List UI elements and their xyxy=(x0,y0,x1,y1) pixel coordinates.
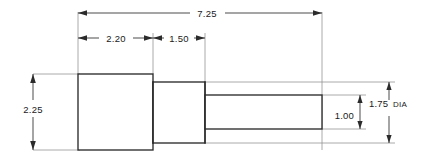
arrow-1-75-bottom xyxy=(386,135,391,143)
dimension-block-width: 2.20 xyxy=(78,33,153,44)
left-block-outline xyxy=(78,74,153,150)
arrow-7-25-left xyxy=(78,10,87,16)
dim-label-diameter-value: 1.75 xyxy=(369,98,388,109)
dim-label-block-width: 2.20 xyxy=(106,33,125,44)
arrow-2-25-bottom xyxy=(30,141,36,150)
arrow-1-50-right xyxy=(196,35,205,41)
right-shaft-outline xyxy=(205,95,322,129)
dimension-shaft-height: 1.00 xyxy=(335,95,363,129)
arrow-7-25-right xyxy=(313,10,322,16)
arrow-2-20-left xyxy=(78,35,87,41)
arrow-1-00-top xyxy=(357,95,362,103)
dimension-block-height: 2.25 xyxy=(23,74,42,150)
dimension-overall-length: 7.25 xyxy=(78,8,322,19)
arrow-1-75-top xyxy=(386,82,391,90)
part-drawing-svg: 7.25 2.20 1.50 2.25 xyxy=(0,0,421,164)
arrow-1-50-left xyxy=(153,35,162,41)
dim-label-overall-length: 7.25 xyxy=(197,8,216,19)
technical-drawing-canvas: 7.25 2.20 1.50 2.25 xyxy=(0,0,421,164)
dimension-diameter: 1.75 DIA xyxy=(369,82,407,143)
part-geometry xyxy=(78,74,322,150)
dim-label-block-height: 2.25 xyxy=(23,104,42,115)
dimension-middle-width: 1.50 xyxy=(153,33,205,44)
arrow-2-20-right xyxy=(144,35,153,41)
dim-label-diameter-suffix: DIA xyxy=(393,100,407,109)
arrow-1-00-bottom xyxy=(357,121,362,129)
arrow-2-25-top xyxy=(30,74,36,83)
middle-step-outline xyxy=(153,82,205,143)
dim-label-middle-width: 1.50 xyxy=(169,33,188,44)
dim-label-shaft-height: 1.00 xyxy=(335,110,354,121)
